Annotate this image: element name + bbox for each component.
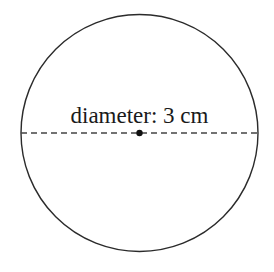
circle-diagram: diameter: 3 cm xyxy=(0,0,274,272)
center-point xyxy=(136,130,142,136)
diameter-label: diameter: 3 cm xyxy=(71,103,209,128)
